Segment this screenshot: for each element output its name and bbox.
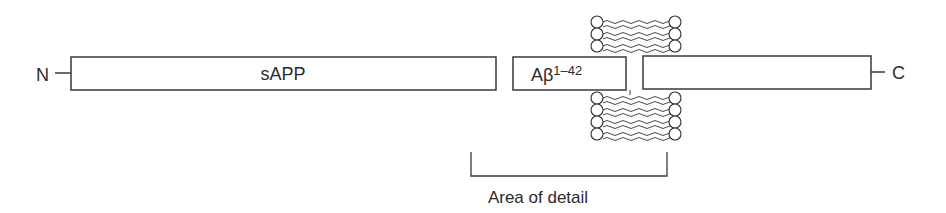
abeta-domain: Aβ1–42 (513, 57, 626, 90)
sapp-domain: sAPP (71, 57, 496, 90)
c-terminus-label: C (892, 63, 905, 83)
transmembrane-segment (630, 56, 640, 95)
app-domain-diagram: N sAPP (0, 0, 946, 213)
sapp-label: sAPP (260, 64, 305, 84)
c-terminal-domain (643, 56, 871, 89)
n-terminus-label: N (36, 65, 49, 85)
area-of-detail-bracket (471, 152, 667, 176)
lower-leaflet (591, 92, 681, 141)
upper-leaflet (591, 16, 681, 53)
area-of-detail-label: Area of detail (488, 188, 588, 207)
